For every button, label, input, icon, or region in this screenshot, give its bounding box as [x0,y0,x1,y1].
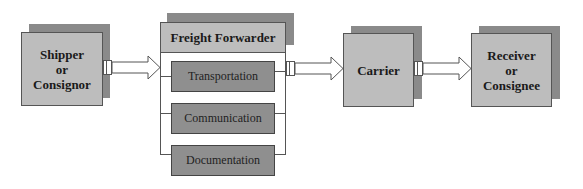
shipper-label: Shipper or Consignor [33,47,91,92]
bracket-tick-right-3 [275,154,286,155]
forwarder-left-bracket [160,53,161,155]
service-communication-label: Communication [184,111,261,126]
bracket-tick-left-3 [160,154,171,155]
arrow-shipper-to-forwarder [103,55,163,81]
bracket-tick-left-2 [160,113,171,114]
service-transportation: Transportation [171,61,275,92]
service-transportation-label: Transportation [188,69,258,84]
receiver-label: Receiver or Consignee [483,48,540,93]
receiver-node: Receiver or Consignee [471,33,552,107]
service-communication: Communication [171,103,275,134]
service-documentation: Documentation [171,145,275,176]
arrow-carrier-to-receiver [414,56,474,82]
shipper-node: Shipper or Consignor [21,32,103,106]
bracket-tick-right-2 [275,113,286,114]
carrier-label: Carrier [357,63,400,78]
forwarder-label: Freight Forwarder [171,30,276,46]
bracket-tick-left-1 [160,76,171,77]
service-documentation-label: Documentation [186,153,260,168]
arrow-forwarder-to-carrier [286,56,346,82]
bracket-tick-right-1 [275,71,286,72]
carrier-node: Carrier [343,33,414,107]
forwarder-header: Freight Forwarder [160,22,286,53]
